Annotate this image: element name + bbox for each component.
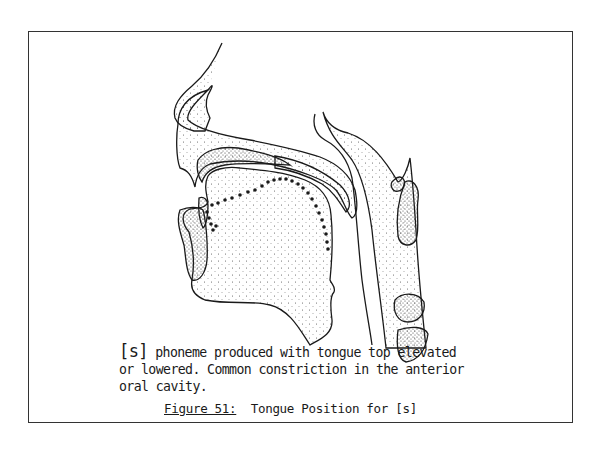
phoneme-symbol: [s]: [119, 341, 148, 361]
description-line-3: oral cavity.: [119, 378, 519, 395]
figure-caption: Figure 51: Tongue Position for [s]: [164, 401, 417, 416]
description-line-2: or lowered. Common constriction in the a…: [119, 361, 519, 378]
description-line-1: [s] phoneme produced with tongue top ele…: [119, 343, 519, 361]
figure-label: Figure 51:: [164, 401, 236, 416]
figure-title: Tongue Position for [s]: [236, 401, 417, 416]
figure-description: [s] phoneme produced with tongue top ele…: [119, 343, 519, 395]
anatomy-outline: [174, 43, 428, 362]
